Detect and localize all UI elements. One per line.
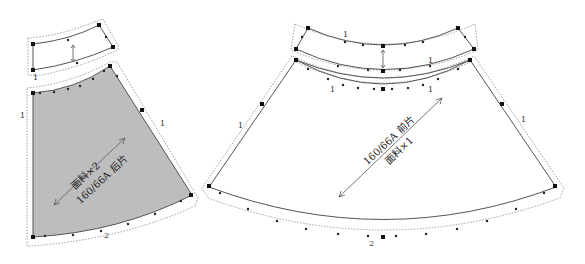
back-skirt-side-mark: 1 — [20, 111, 25, 120]
back-skirt: 面料×2 160/66A 后片 1 1 2 — [20, 62, 198, 246]
pattern-canvas: 1 面料×2 160/66A 后片 1 1 2 — [0, 0, 585, 264]
back-skirt-side-mark-right: 1 — [160, 119, 165, 128]
back-skirt-hem-mark: 2 — [104, 231, 109, 240]
front-skirt-waist-mark-right: 1 — [428, 85, 433, 94]
back-waistband-mark: 1 — [33, 73, 38, 82]
front-skirt-name-label: 前片 — [394, 113, 417, 135]
front-skirt: 160/66A 前片 面料×1 1 1 1 1 2 — [202, 56, 564, 248]
front-skirt-hem-mark: 2 — [369, 239, 374, 248]
front-skirt-side-mark-right: 1 — [521, 115, 526, 124]
front-waistband-mark-left: 1 — [343, 30, 348, 39]
front-skirt-side-mark-left: 1 — [238, 121, 243, 130]
front-waistband-mark-right: 1 — [428, 56, 433, 65]
front-skirt-waist-mark-left: 1 — [330, 85, 335, 94]
front-waistband: 1 1 — [291, 24, 478, 73]
